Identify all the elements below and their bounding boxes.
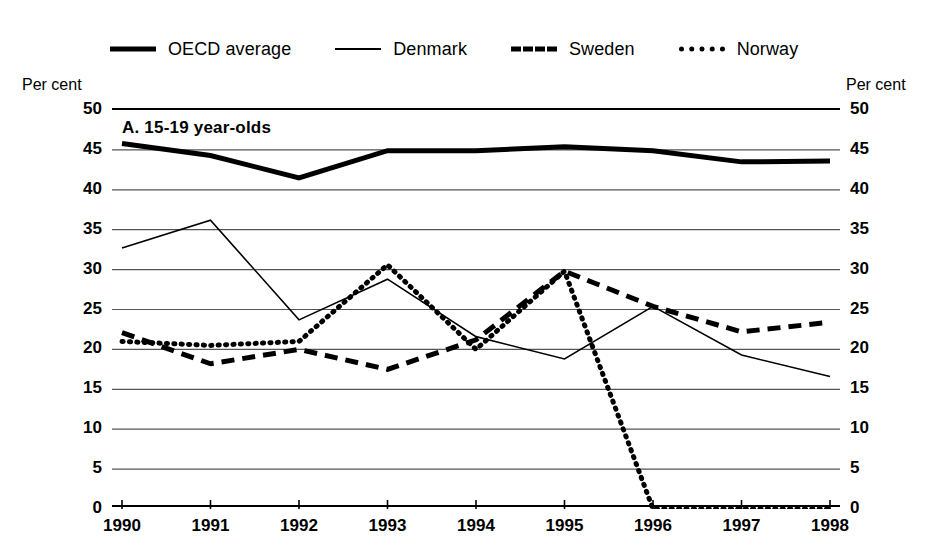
y-tick-label-20: 20 bbox=[83, 339, 102, 356]
legend-item-denmark: Denmark bbox=[335, 39, 467, 60]
series-line-oecd-average bbox=[122, 144, 830, 178]
y-tick-label-45: 45 bbox=[83, 139, 102, 156]
y-tick-label-30: 30 bbox=[850, 259, 869, 276]
y-tick-label-5: 5 bbox=[850, 459, 859, 476]
y-tick-label-50: 50 bbox=[850, 100, 869, 117]
x-tick-label-1992: 1992 bbox=[280, 516, 318, 536]
x-tick-label-1994: 1994 bbox=[457, 516, 495, 536]
x-tick-label-1995: 1995 bbox=[546, 516, 584, 536]
line-solid-thin-icon bbox=[335, 42, 381, 56]
x-tick-label-1998: 1998 bbox=[811, 516, 849, 536]
legend-item-norway: Norway bbox=[679, 39, 799, 60]
y-tick-label-20: 20 bbox=[850, 339, 869, 356]
y-tick-label-10: 10 bbox=[83, 419, 102, 436]
y-tick-label-15: 15 bbox=[850, 379, 869, 396]
y-tick-label-10: 10 bbox=[850, 419, 869, 436]
y-tick-label-40: 40 bbox=[850, 179, 869, 196]
x-axis-ticks: 199019911992199319941995199619971998 bbox=[112, 516, 840, 542]
x-tick-label-1996: 1996 bbox=[634, 516, 672, 536]
y-tick-label-25: 25 bbox=[850, 299, 869, 316]
x-tick-label-1997: 1997 bbox=[723, 516, 761, 536]
x-tick-label-1990: 1990 bbox=[103, 516, 141, 536]
y-tick-label-25: 25 bbox=[83, 299, 102, 316]
y-tick-label-0: 0 bbox=[850, 499, 859, 516]
plot-canvas bbox=[112, 110, 840, 509]
panel-title: A. 15-19 year-olds bbox=[122, 118, 271, 138]
y-tick-label-15: 15 bbox=[83, 379, 102, 396]
line-dotted-icon bbox=[679, 42, 725, 56]
series-line-sweden bbox=[122, 271, 830, 369]
line-solid-thick-icon bbox=[110, 42, 156, 56]
y-tick-label-35: 35 bbox=[850, 219, 869, 236]
chart-figure: OECD averageDenmarkSwedenNorway Per cent… bbox=[0, 0, 948, 557]
chart-legend: OECD averageDenmarkSwedenNorway bbox=[110, 34, 850, 64]
legend-item-sweden: Sweden bbox=[511, 39, 635, 60]
y-tick-label-30: 30 bbox=[83, 259, 102, 276]
y-tick-label-50: 50 bbox=[83, 100, 102, 117]
y-axis-right-ticks: 05101520253035404550 bbox=[850, 108, 920, 507]
y-tick-label-40: 40 bbox=[83, 179, 102, 196]
legend-label: OECD average bbox=[168, 39, 291, 60]
legend-item-oecd-average: OECD average bbox=[110, 39, 291, 60]
series-line-norway bbox=[122, 265, 830, 509]
legend-label: Denmark bbox=[393, 39, 467, 60]
y-axis-caption-left: Per cent bbox=[22, 76, 82, 94]
plot-area bbox=[112, 108, 840, 507]
x-tick-label-1991: 1991 bbox=[192, 516, 230, 536]
y-tick-label-35: 35 bbox=[83, 219, 102, 236]
line-dashed-icon bbox=[511, 42, 557, 56]
legend-label: Norway bbox=[737, 39, 799, 60]
x-tick-label-1993: 1993 bbox=[369, 516, 407, 536]
y-axis-left-ticks: 05101520253035404550 bbox=[20, 108, 102, 507]
y-tick-label-5: 5 bbox=[93, 459, 102, 476]
y-axis-caption-right: Per cent bbox=[846, 76, 906, 94]
series-line-denmark bbox=[122, 220, 830, 376]
y-tick-label-0: 0 bbox=[93, 499, 102, 516]
legend-label: Sweden bbox=[569, 39, 635, 60]
y-tick-label-45: 45 bbox=[850, 139, 869, 156]
